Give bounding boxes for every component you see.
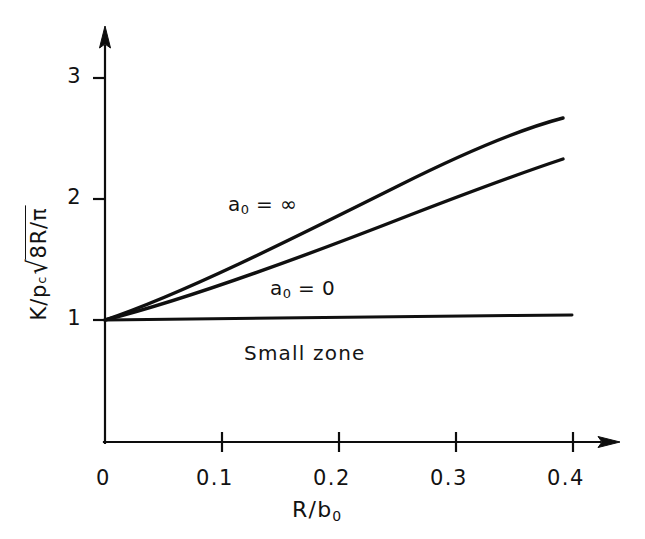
annotation-a0-zero-subscript: 0 [283,286,291,301]
annotation-a0-zero-symbol: a [270,276,283,300]
y-axis-title-denominator-subscript: c [34,277,49,284]
radical-icon: √ [24,259,52,275]
annotation-a0-infinity: a0 = ∞ [228,192,297,217]
annotation-small-zone: Small zone [244,341,366,365]
x-axis-title-slash: / [309,497,318,522]
y-axis-title-radicand-numerator: 8R [27,229,51,259]
annotation-a0-infinity-symbol: a [228,192,241,216]
x-tick-label-0.3: 0.3 [430,466,468,490]
x-tick-label-0: 0 [96,466,111,490]
annotation-a0-infinity-subscript: 0 [241,202,249,217]
y-tick-label-3: 3 [56,64,82,88]
y-axis-title: K/pc√8R/π [8,178,68,348]
x-axis-arrow-icon [598,437,620,448]
chart-figure: 3 2 1 0 0.1 0.2 0.3 0.4 a0 = ∞ a0 = 0 Sm… [0,0,645,539]
y-axis-title-radicand-slash: / [27,221,51,229]
x-axis-title-denominator: b [317,497,332,522]
chart-plot-area [0,0,645,539]
x-tick-label-0.1: 0.1 [196,466,234,490]
y-axis-title-radicand-denominator: π [27,208,51,221]
x-tick-label-0.2: 0.2 [313,466,351,490]
y-axis-title-numerator: K [27,306,51,321]
y-axis-title-denominator: p [27,284,51,298]
y-axis-title-slash: / [27,298,51,306]
y-axis-title-sqrt-group: √8R/π [25,206,51,275]
x-tick-label-0.4: 0.4 [547,466,585,490]
y-axis-arrow-icon [100,26,111,48]
x-axis-title-numerator: R [292,497,309,522]
x-axis-title-subscript: 0 [332,508,341,524]
annotation-a0-infinity-value: = ∞ [256,192,297,216]
x-axis-title: R/b0 [292,497,341,524]
y-axis-title-inner: K/pc√8R/π [25,206,51,321]
curve-small-zone [105,315,572,320]
y-axis-title-radicand: 8R/π [25,206,51,260]
annotation-a0-zero: a0 = 0 [270,276,335,301]
annotation-a0-zero-value: = 0 [298,276,335,300]
